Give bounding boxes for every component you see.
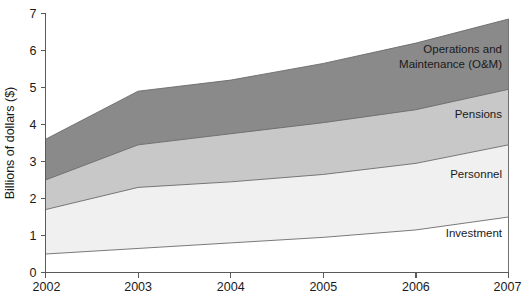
x-tick-label: 2006: [402, 280, 430, 294]
y-tick-label: 1: [30, 229, 37, 243]
x-axis-ticks: 200220032004200520062007: [33, 273, 522, 294]
y-tick-label: 6: [30, 44, 37, 58]
series-label-personnel: Personnel: [450, 168, 502, 180]
x-tick-label: 2004: [217, 280, 245, 294]
y-axis-title: Billions of dollars ($): [3, 87, 17, 200]
chart-canvas: 01234567 200220032004200520062007 Invest…: [0, 0, 526, 300]
y-tick-label: 4: [30, 118, 37, 132]
x-tick-label: 2007: [494, 280, 522, 294]
y-tick-label: 5: [30, 81, 37, 95]
series-label-investment: Investment: [446, 227, 503, 239]
y-tick-label: 7: [30, 7, 37, 21]
x-tick-label: 2005: [309, 280, 337, 294]
y-axis-ticks: 01234567: [30, 7, 46, 280]
x-tick-label: 2003: [124, 280, 152, 294]
stacked-area-chart: 01234567 200220032004200520062007 Invest…: [0, 0, 526, 300]
x-tick-label: 2002: [33, 280, 61, 294]
y-tick-label: 2: [30, 192, 37, 206]
y-tick-label: 0: [30, 266, 37, 280]
y-tick-label: 3: [30, 155, 37, 169]
series-label-pensions: Pensions: [455, 108, 503, 120]
